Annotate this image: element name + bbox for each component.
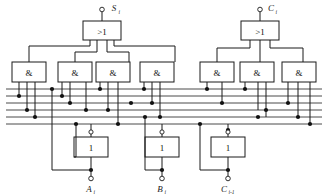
and-gate-3-label: &	[109, 68, 116, 78]
and-gate-3[interactable]: &	[96, 62, 130, 82]
input-label-c-sub: i-1	[229, 189, 235, 195]
inverter-c-label: 1	[226, 143, 231, 153]
input-terminal-c-node[interactable]	[226, 176, 231, 181]
and-gate-2-label: &	[71, 68, 78, 78]
inverter-a[interactable]: 1	[74, 124, 108, 170]
inverter-c[interactable]: 1	[211, 124, 245, 170]
output-label-s: S	[112, 3, 117, 13]
output-terminal-s[interactable]	[100, 7, 105, 12]
or-gate-sum[interactable]: >1 S i	[83, 3, 121, 40]
input-label-c: C	[221, 184, 228, 194]
input-label-b: B	[157, 184, 163, 194]
logic-circuit-svg: >1 S i >1	[0, 0, 328, 196]
and-gate-7[interactable]: &	[282, 62, 316, 82]
input-feed-wires	[52, 89, 228, 170]
inverter-b-output-bubble	[160, 130, 164, 134]
or-gate-carry-label: >1	[255, 27, 265, 37]
output-label-c-sub: i	[276, 9, 278, 15]
or-carry-fanin-tree	[217, 40, 303, 62]
or-gate-sum-label: >1	[97, 27, 107, 37]
and-gate-1-label: &	[25, 68, 32, 78]
output-label-s-sub: i	[119, 9, 121, 15]
input-label-a-sub: i	[94, 189, 96, 195]
circuit-diagram-canvas: >1 S i >1	[0, 0, 328, 196]
inverter-b[interactable]: 1	[145, 124, 179, 170]
and-gate-7-label: &	[295, 68, 302, 78]
and-gate-4[interactable]: &	[140, 62, 174, 82]
input-terminal-b[interactable]: B i	[157, 168, 166, 195]
input-terminal-c[interactable]: C i-1	[221, 168, 235, 195]
inverter-a-label: 1	[89, 143, 94, 153]
and-gate-5-label: &	[213, 68, 220, 78]
input-terminal-a[interactable]: A i	[85, 168, 95, 195]
inverter-c-output-bubble	[226, 130, 230, 134]
inverter-b-label: 1	[160, 143, 165, 153]
input-terminal-b-node[interactable]	[160, 176, 165, 181]
inverter-a-output-bubble	[89, 130, 93, 134]
output-label-c: C	[268, 3, 275, 13]
or-sum-fanin-tree	[29, 40, 175, 62]
and-gate-4-label: &	[153, 68, 160, 78]
and-gate-1[interactable]: &	[12, 62, 46, 82]
signal-bus-group	[6, 89, 322, 124]
output-terminal-c[interactable]	[258, 7, 263, 12]
input-label-b-sub: i	[165, 189, 167, 195]
and-gate-6-label: &	[253, 68, 260, 78]
and-gate-5[interactable]: &	[200, 62, 234, 82]
input-terminal-a-node[interactable]	[89, 176, 94, 181]
or-gate-carry[interactable]: >1 C i	[241, 3, 279, 40]
input-label-a: A	[85, 184, 92, 194]
and-gate-2[interactable]: &	[58, 62, 92, 82]
and-gate-6[interactable]: &	[240, 62, 274, 82]
